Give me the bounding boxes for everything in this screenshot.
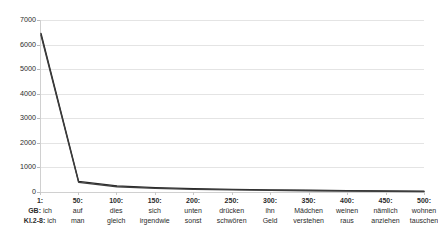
y-tick-label-6000: 6000 [2,41,36,48]
x-word-kl: schwören [217,216,247,226]
x-tick-mark-450 [386,192,387,195]
x-rank-label: 200: [184,196,202,206]
x-label-group-50: 50:aufman [71,196,85,226]
x-word-kl: irgendwie [140,216,170,226]
row-key-gb: GB: [28,207,43,214]
x-label-group-150: 150:sichirgendwie [140,196,170,226]
plot-area [40,20,424,192]
x-word-gb: unten [184,206,202,216]
x-rank-label: 150: [140,196,170,206]
x-tick-mark-300 [270,192,271,195]
series-line-kl28 [41,35,424,191]
y-tick-label-3000: 3000 [2,115,36,122]
x-word-gb: auf [71,206,85,216]
y-tick-label-5000: 5000 [2,66,36,73]
y-tick-label-1000: 1000 [2,164,36,171]
x-tick-mark-50 [78,192,79,195]
x-tick-mark-150 [155,192,156,195]
x-label-group-500: 500:wohnentauschen [410,196,438,226]
x-word-gb: GB: ich [24,206,56,216]
x-rank-label: 350: [293,196,324,206]
x-tick-mark-200 [193,192,194,195]
x-word-kl: sonst [184,216,202,226]
x-word-gb: Mädchen [293,206,324,216]
x-label-group-100: 100:diesgleich [107,196,125,226]
series-line-gb [41,34,424,192]
x-word-gb: drücken [217,206,247,216]
y-tick-label-2000: 2000 [2,139,36,146]
x-label-group-350: 350:Mädchenverstehen [293,196,324,226]
x-rank-label: 50: [71,196,85,206]
x-axis-labels: 1:GB: ichKl.2-8: ich50:aufman100:diesgle… [40,196,424,242]
x-tick-mark-100 [116,192,117,195]
x-word-gb: dies [107,206,125,216]
x-label-group-200: 200:untensonst [184,196,202,226]
x-word-kl: anziehen [371,216,399,226]
x-word-gb: wohnen [410,206,438,216]
x-rank-label: 300: [263,196,278,206]
x-label-group-450: 450:nämlichanziehen [371,196,399,226]
x-word-gb: sich [140,206,170,216]
x-word-gb: nämlich [371,206,399,216]
x-tick-mark-500 [424,192,425,195]
x-word-kl: gleich [107,216,125,226]
x-word-gb: ihn [263,206,278,216]
x-tick-mark-350 [309,192,310,195]
x-rank-label: 450: [371,196,399,206]
x-rank-label: 100: [107,196,125,206]
x-word-kl: man [71,216,85,226]
y-tick-label-0: 0 [2,188,36,195]
row-key-kl: Kl.2-8: [24,217,47,224]
x-word-kl: Kl.2-8: ich [24,216,56,226]
x-label-group-1: 1:GB: ichKl.2-8: ich [24,196,56,226]
x-tick-mark-400 [347,192,348,195]
x-word-kl: verstehen [293,216,324,226]
series-lines [41,20,424,192]
x-rank-label: 500: [410,196,438,206]
x-rank-label: 400: [336,196,358,206]
x-label-group-300: 300:ihnGeld [263,196,278,226]
x-rank-label: 250: [217,196,247,206]
y-tick-label-7000: 7000 [2,16,36,23]
x-label-group-250: 250:drückenschwören [217,196,247,226]
y-tick-label-4000: 4000 [2,90,36,97]
x-word-kl: Geld [263,216,278,226]
x-tick-mark-1 [40,192,41,195]
x-label-group-400: 400:weinenraus [336,196,358,226]
x-rank-label: 1: [24,196,56,206]
x-word-kl: tauschen [410,216,438,226]
x-word-gb: weinen [336,206,358,216]
x-tick-mark-250 [232,192,233,195]
x-word-kl: raus [336,216,358,226]
